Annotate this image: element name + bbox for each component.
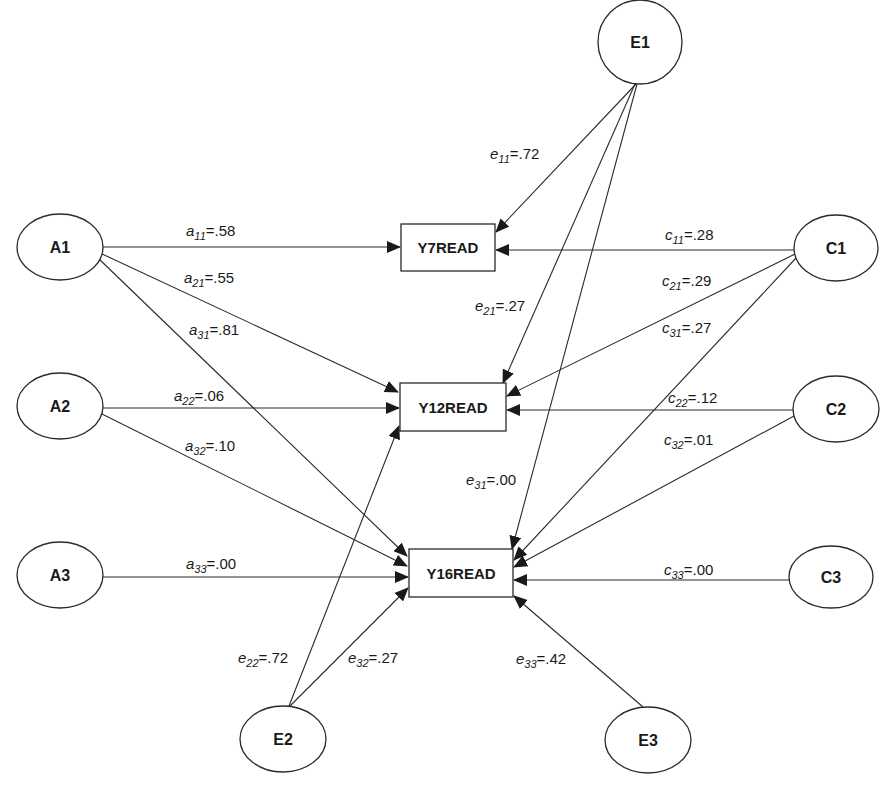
edge-e33 — [514, 596, 643, 707]
node-A1-label: A1 — [50, 239, 71, 256]
node-E3-label: E3 — [638, 732, 658, 749]
node-C1[interactable]: C1 — [794, 215, 878, 281]
label-a21: a21=.55 — [184, 269, 234, 289]
edge-c32 — [514, 416, 794, 567]
edge-e32 — [290, 588, 408, 706]
label-a31: a31=.81 — [189, 321, 239, 341]
node-Y16READ[interactable]: Y16READ — [409, 549, 513, 597]
label-e32: e32=.27 — [348, 649, 398, 669]
node-C2-label: C2 — [826, 401, 847, 418]
label-e31: e31=.00 — [466, 471, 516, 491]
edges-common — [496, 250, 797, 580]
node-A2-label: A2 — [50, 398, 71, 415]
edges-additive — [98, 247, 408, 577]
node-C2[interactable]: C2 — [793, 376, 879, 442]
label-a32: a32=.10 — [185, 437, 235, 457]
label-c31: c31=.27 — [662, 319, 711, 339]
label-a22: a22=.06 — [174, 387, 224, 407]
label-c32: c32=.01 — [664, 431, 713, 451]
node-E3[interactable]: E3 — [605, 707, 691, 773]
node-E1-label: E1 — [630, 34, 650, 51]
node-Y7READ-label: Y7READ — [418, 239, 479, 256]
node-Y7READ[interactable]: Y7READ — [401, 224, 495, 271]
node-A3[interactable]: A3 — [17, 542, 103, 608]
label-c21: c21=.29 — [662, 272, 711, 292]
label-e22: e22=.72 — [238, 649, 288, 669]
edge-a21 — [100, 253, 398, 392]
node-C1-label: C1 — [826, 240, 847, 257]
label-c11: c11=.28 — [665, 226, 714, 246]
edge-c31 — [514, 257, 797, 560]
label-c33: c33=.00 — [664, 561, 713, 581]
label-c22: c22=.12 — [668, 389, 717, 409]
observed-nodes: Y7READ Y12READ Y16READ — [400, 224, 513, 597]
node-A2[interactable]: A2 — [17, 373, 103, 439]
node-Y12READ-label: Y12READ — [418, 399, 487, 416]
node-Y12READ[interactable]: Y12READ — [400, 383, 506, 431]
node-E2-label: E2 — [273, 731, 293, 748]
edge-a32 — [102, 414, 407, 566]
label-a11: a11=.58 — [186, 222, 235, 242]
node-E2[interactable]: E2 — [240, 706, 326, 772]
label-e11: e11=.72 — [490, 145, 539, 165]
node-C3[interactable]: C3 — [789, 546, 873, 608]
node-E1[interactable]: E1 — [598, 0, 682, 84]
label-a33: a33=.00 — [186, 555, 236, 575]
edge-a31 — [98, 258, 407, 556]
path-diagram: A1 A2 A3 C1 C2 C3 E1 E2 — [0, 0, 890, 789]
node-A1[interactable]: A1 — [17, 214, 103, 280]
label-e33: e33=.42 — [516, 650, 566, 670]
node-A3-label: A3 — [50, 567, 71, 584]
label-e21: e21=.27 — [475, 297, 525, 317]
node-C3-label: C3 — [821, 569, 842, 586]
node-Y16READ-label: Y16READ — [426, 565, 495, 582]
